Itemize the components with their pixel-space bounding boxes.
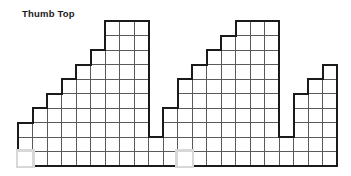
stitch-chart-grid (0, 0, 351, 176)
highlighted-cell[interactable] (177, 151, 194, 168)
stitch-chart-canvas: Thumb Top (0, 0, 351, 176)
highlighted-cell[interactable] (17, 151, 34, 168)
